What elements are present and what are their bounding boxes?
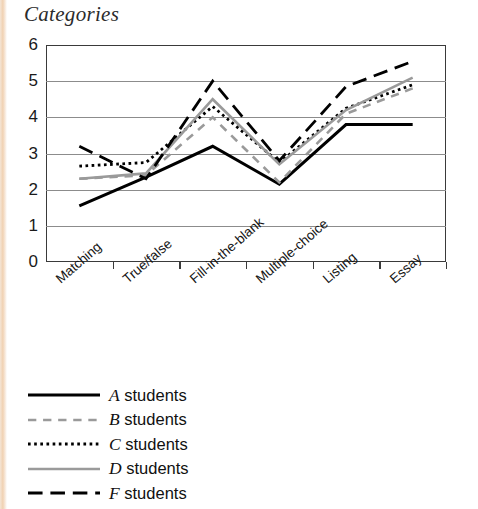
- y-tick-5: 5: [8, 71, 38, 91]
- legend-swatch-c-icon: [28, 437, 100, 451]
- legend-label-c: C students: [109, 434, 188, 455]
- legend-swatch-d-icon: [28, 462, 100, 476]
- y-tick-1: 1: [8, 216, 38, 236]
- legend-swatch-a-icon: [28, 388, 100, 402]
- legend-item-b[interactable]: B students: [28, 408, 458, 433]
- x-tick-4: [313, 262, 314, 269]
- x-tick-1: [113, 262, 114, 269]
- y-tick-3: 3: [8, 144, 38, 164]
- legend-grade-letter: A: [109, 385, 120, 405]
- legend-item-a[interactable]: A students: [28, 383, 458, 408]
- series-line-f: [79, 61, 412, 179]
- legend-grade-letter: B: [109, 409, 120, 429]
- legend-item-f[interactable]: F students: [28, 481, 458, 506]
- y-tick-0: 0: [8, 252, 38, 272]
- x-tick-6: [446, 262, 447, 269]
- legend-grade-letter: F: [109, 483, 120, 503]
- legend-swatch-f-icon: [28, 486, 100, 500]
- x-tick-5: [379, 262, 380, 269]
- legend-grade-letter: D: [109, 458, 122, 478]
- y-tick-6: 6: [8, 35, 38, 55]
- line-chart: 0123456 MatchingTrue/falseFill-in-the-bl…: [0, 36, 478, 286]
- legend-label-d: D students: [109, 458, 189, 479]
- legend-grade-letter: C: [109, 434, 121, 454]
- x-tick-2: [179, 262, 180, 269]
- legend-item-d[interactable]: D students: [28, 457, 458, 482]
- series-line-a: [79, 125, 412, 206]
- chart-legend: A studentsB studentsC studentsD students…: [28, 383, 458, 506]
- x-tick-3: [246, 262, 247, 269]
- legend-label-f: F students: [109, 483, 187, 504]
- legend-swatch-b-icon: [28, 413, 100, 427]
- y-tick-4: 4: [8, 107, 38, 127]
- legend-label-b: B students: [109, 409, 187, 430]
- legend-label-a: A students: [109, 385, 187, 406]
- y-tick-2: 2: [8, 180, 38, 200]
- legend-item-c[interactable]: C students: [28, 432, 458, 457]
- page-title: Categories: [24, 2, 119, 27]
